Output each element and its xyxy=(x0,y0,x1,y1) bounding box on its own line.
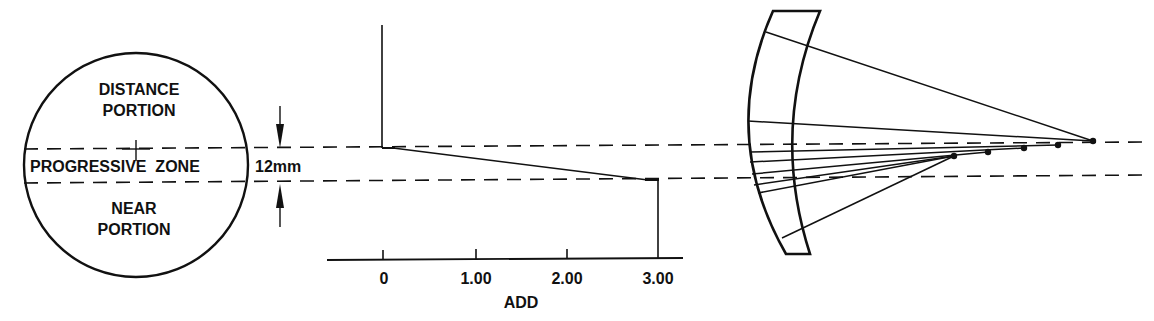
tick-label-2: 2.00 xyxy=(551,270,582,287)
zone-bottom-dashed-line xyxy=(24,175,1145,183)
zone-height-label: 12mm xyxy=(255,158,301,175)
focal-point-2-icon xyxy=(1055,142,1061,148)
lens-cross-section xyxy=(748,11,1096,254)
progressive-zone-label: PROGRESSIVE ZONE xyxy=(30,158,200,175)
tick-label-0: 0 xyxy=(380,270,389,287)
focal-point-distance-icon xyxy=(1090,138,1096,144)
tick-label-3: 3.00 xyxy=(642,270,673,287)
distance-label-line1: DISTANCE xyxy=(99,81,180,98)
ray-lines xyxy=(748,32,1093,238)
arrowhead-down-icon xyxy=(276,124,284,148)
axis-label-add: ADD xyxy=(504,294,539,311)
near-label-line1: NEAR xyxy=(111,200,157,217)
focal-point-near-icon xyxy=(951,153,957,159)
zone-top-dashed-line xyxy=(24,142,1145,149)
progressive-ramp-line xyxy=(393,148,648,180)
focal-point-4-icon xyxy=(985,149,991,155)
ray-near-upper xyxy=(758,156,954,193)
lens-front-view: DISTANCE PORTION PROGRESSIVE ZONE 12mm N… xyxy=(24,53,301,277)
progressive-lens-diagram: DISTANCE PORTION PROGRESSIVE ZONE 12mm N… xyxy=(0,0,1154,321)
meniscus-lens-outline xyxy=(748,11,820,254)
add-axis xyxy=(327,258,683,260)
dimension-arrow-top xyxy=(276,106,284,148)
focal-point-3-icon xyxy=(1021,145,1027,151)
near-label-line2: PORTION xyxy=(98,221,171,238)
focal-points xyxy=(951,138,1096,159)
dimension-arrow-bottom xyxy=(276,184,284,227)
add-power-profile: 0 1.00 2.00 3.00 ADD xyxy=(327,25,683,311)
distance-label-line2: PORTION xyxy=(103,102,176,119)
tick-label-1: 1.00 xyxy=(460,270,491,287)
